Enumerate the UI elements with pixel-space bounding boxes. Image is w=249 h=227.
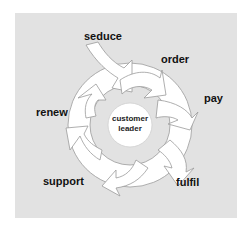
stage-label-fulfil: fulfil bbox=[176, 176, 199, 188]
stage-label-order: order bbox=[161, 53, 189, 65]
stage-label-support: support bbox=[43, 175, 84, 187]
stage-label-renew: renew bbox=[36, 106, 68, 118]
stage-label-pay: pay bbox=[204, 92, 223, 104]
center-label-line2: leader bbox=[108, 124, 152, 134]
stage-label-seduce: seduce bbox=[84, 30, 122, 42]
center-label-line1: customer bbox=[108, 114, 152, 124]
center-label: customer leader bbox=[108, 114, 152, 134]
